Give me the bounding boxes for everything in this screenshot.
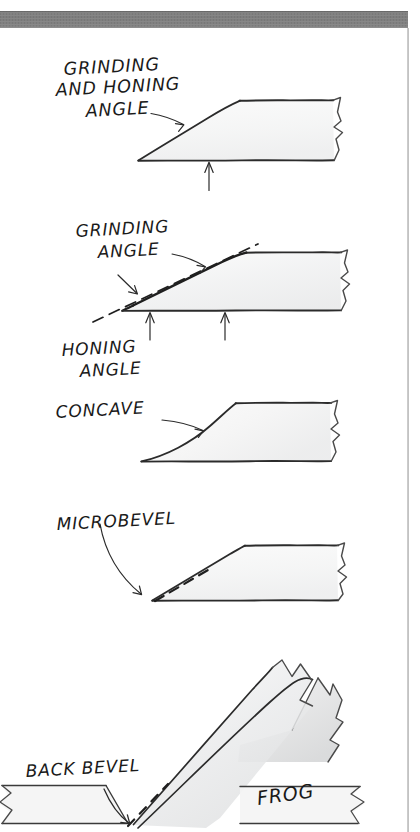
blade-top-edge-2: [246, 252, 342, 253]
blade-top-edge-4: [245, 545, 339, 546]
label-honing-angle-line1: HONING: [61, 336, 137, 360]
blade-back-edge-1: [138, 160, 334, 161]
blade-top-edge-1: [240, 100, 334, 101]
page-right-rule: [407, 28, 408, 832]
scanned-page: GRINDING AND HONING ANGLE: [0, 0, 420, 832]
diagram-canvas: GRINDING AND HONING ANGLE: [0, 0, 420, 832]
label-honing-angle-line2: ANGLE: [78, 358, 142, 381]
blade-top-edge-3: [236, 403, 332, 404]
blade-back-edge-2: [122, 310, 341, 311]
label-grinding-and-honing-angle-line3: ANGLE: [84, 98, 150, 121]
blade-back-edge-3: [141, 461, 331, 462]
label-grinding-angle-line2: ANGLE: [96, 239, 160, 262]
scan-header-band: [0, 11, 408, 28]
blade-back-edge-4: [152, 600, 338, 601]
